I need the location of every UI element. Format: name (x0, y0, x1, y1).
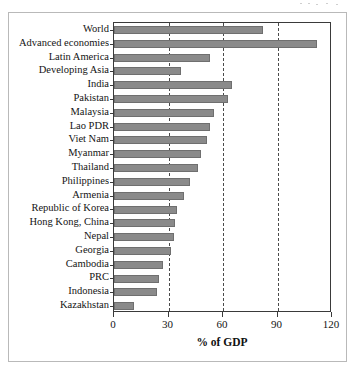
y-axis-tick (110, 30, 114, 31)
y-axis-label: Developing Asia (39, 64, 109, 75)
y-axis-tick (110, 182, 114, 183)
y-axis-label: Myanmar (68, 147, 109, 158)
y-axis-tick (110, 209, 114, 210)
y-axis-tick (110, 196, 114, 197)
bar-row (114, 299, 332, 313)
y-axis-tick (110, 306, 114, 307)
bar (114, 275, 159, 283)
y-axis-tick (110, 251, 114, 252)
y-axis-label: Republic of Korea (31, 202, 109, 213)
x-axis-tick-60 (222, 312, 223, 317)
x-axis-tick-0 (113, 312, 114, 317)
bar-row (114, 64, 332, 78)
bar-row (114, 23, 332, 37)
y-axis-tick (110, 140, 114, 141)
y-axis-label: Viet Nam (69, 133, 109, 144)
bar-row (114, 230, 332, 244)
y-axis-tick (110, 71, 114, 72)
y-axis-tick (110, 99, 114, 100)
bar (114, 95, 228, 103)
bar (114, 109, 214, 117)
y-axis-tick (110, 58, 114, 59)
y-axis-tick (110, 265, 114, 266)
bar (114, 67, 181, 75)
y-axis-label: Pakistan (73, 92, 109, 103)
bar (114, 164, 198, 172)
bar (114, 192, 184, 200)
bar (114, 136, 207, 144)
y-axis-tick (110, 127, 114, 128)
y-axis-label: PRC (89, 271, 109, 282)
bar-row (114, 216, 332, 230)
y-axis-label: India (87, 78, 109, 89)
scan-artifact (316, 4, 318, 5)
bar-row (114, 203, 332, 217)
bar (114, 302, 134, 310)
bar (114, 288, 157, 296)
bar (114, 219, 175, 227)
y-axis-tick (110, 278, 114, 279)
bar (114, 150, 201, 158)
y-axis-tick (110, 292, 114, 293)
x-axis-tick-90 (277, 312, 278, 317)
y-axis-label: Malaysia (71, 106, 110, 117)
bar-row (114, 285, 332, 299)
chart-figure: WorldAdvanced economiesLatin AmericaDeve… (0, 0, 356, 381)
scan-artifact (326, 3, 328, 4)
bar-row (114, 161, 332, 175)
bar-row (114, 258, 332, 272)
bar (114, 123, 210, 131)
y-axis-label: Cambodia (66, 258, 109, 269)
y-axis-tick (110, 85, 114, 86)
x-axis-title: % of GDP (113, 336, 331, 348)
bar (114, 247, 171, 255)
y-axis-tick (110, 44, 114, 45)
y-axis-label: Philippines (62, 175, 109, 186)
y-axis-label: Armenia (72, 189, 109, 200)
bar (114, 178, 190, 186)
bar-row (114, 120, 332, 134)
y-axis-tick (110, 154, 114, 155)
bar (114, 206, 177, 214)
x-axis-tick-label: 0 (110, 318, 116, 330)
y-axis-label: World (83, 23, 109, 34)
y-axis-label: Thailand (72, 161, 109, 172)
x-axis-tick-30 (168, 312, 169, 317)
plot-area (113, 22, 331, 312)
x-axis-tick-label: 60 (217, 318, 228, 330)
bar-row (114, 175, 332, 189)
y-axis-label: Advanced economies (19, 37, 109, 48)
bar (114, 54, 210, 62)
y-axis-label: Georgia (75, 244, 109, 255)
bar-row (114, 78, 332, 92)
bar-row (114, 272, 332, 286)
bar (114, 26, 263, 34)
x-axis-tick-label: 120 (323, 318, 340, 330)
y-axis-labels: WorldAdvanced economiesLatin AmericaDeve… (0, 22, 109, 312)
bar (114, 40, 317, 48)
bar-row (114, 106, 332, 120)
x-axis-tick-120 (331, 312, 332, 317)
y-axis-tick (110, 237, 114, 238)
y-axis-tick (110, 223, 114, 224)
bar (114, 233, 174, 241)
x-axis-tick-label: 90 (271, 318, 282, 330)
bar-row (114, 92, 332, 106)
y-axis-label: Hong Kong, China (29, 216, 109, 227)
bar-row (114, 189, 332, 203)
y-axis-label: Lao PDR (70, 120, 109, 131)
bar (114, 81, 232, 89)
scan-artifact (336, 4, 338, 5)
bar-row (114, 51, 332, 65)
bar-row (114, 244, 332, 258)
x-axis-tick-labels: 0306090120 (113, 318, 331, 332)
scan-artifact (308, 3, 310, 4)
bar (114, 261, 163, 269)
y-axis-label: Indonesia (68, 285, 109, 296)
bar-row (114, 37, 332, 51)
scan-artifact (300, 3, 302, 4)
y-axis-tick (110, 113, 114, 114)
bar-row (114, 147, 332, 161)
y-axis-label: Latin America (49, 51, 109, 62)
bar-row (114, 133, 332, 147)
